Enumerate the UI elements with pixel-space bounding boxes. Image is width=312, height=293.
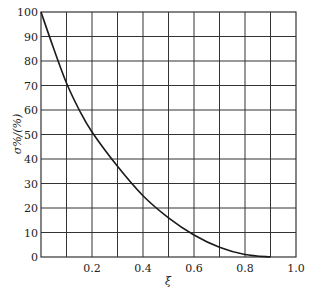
x-tick-label: 1.0 (287, 262, 305, 275)
y-axis-label: σ%/(%) (11, 114, 24, 155)
y-tick-label: 50 (24, 129, 38, 142)
x-tick-label: 0.4 (134, 262, 152, 275)
y-tick-label: 20 (24, 202, 38, 215)
sigma-vs-xi-chart: 0102030405060708090100 0.20.40.60.81.0 ξ… (0, 0, 312, 293)
x-tick-label: 0.8 (236, 262, 254, 275)
x-axis-label: ξ (165, 275, 172, 288)
y-tick-label: 100 (17, 6, 38, 19)
y-tick-label: 70 (24, 80, 38, 93)
x-tick-label: 0.2 (83, 262, 101, 275)
y-tick-label: 90 (24, 31, 38, 44)
y-tick-label: 10 (24, 227, 38, 240)
x-tick-label: 0.6 (185, 262, 203, 275)
y-tick-label: 60 (24, 104, 38, 117)
y-tick-label: 80 (24, 55, 38, 68)
x-axis-ticks: 0.20.40.60.81.0 (83, 262, 305, 275)
y-tick-label: 40 (24, 153, 38, 166)
y-tick-label: 30 (24, 178, 38, 191)
grid-lines (41, 12, 296, 257)
y-tick-label: 0 (31, 251, 38, 264)
